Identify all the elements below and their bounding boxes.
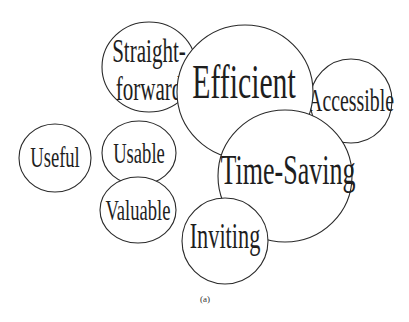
bubble-efficient-label: Efficient <box>192 55 296 109</box>
figure-caption: (a) <box>200 294 210 304</box>
bubble-diagram: Straight- forward Accessible Efficient T… <box>0 0 409 322</box>
bubble-inviting: Inviting <box>182 198 268 284</box>
bubble-straightforward-line2: forward <box>116 70 183 107</box>
bubble-valuable-label: Valuable <box>105 194 170 226</box>
bubble-usable-label: Usable <box>113 137 165 169</box>
bubble-usable: Usable <box>102 121 176 185</box>
bubble-useful-label: Useful <box>30 141 80 173</box>
bubble-accessible-label: Accessible <box>308 82 394 118</box>
bubble-inviting-label: Inviting <box>190 216 261 256</box>
bubble-useful: Useful <box>19 124 91 192</box>
bubble-straightforward-line1: Straight- <box>112 32 186 69</box>
bubble-time-saving-label: Time-Saving <box>220 147 355 194</box>
bubble-valuable: Valuable <box>100 177 176 243</box>
